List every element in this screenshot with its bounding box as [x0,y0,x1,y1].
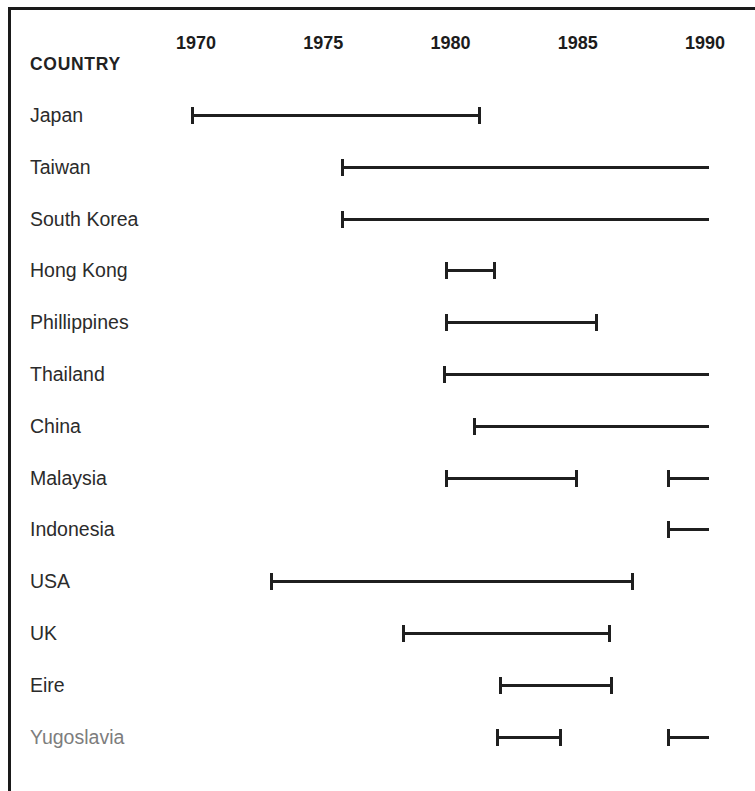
timeline-bar-segment [443,373,709,376]
timeline-start-cap [667,521,670,538]
timeline-end-cap [610,677,613,694]
timeline-bar-segment [667,528,709,531]
timeline-start-cap [270,573,273,590]
timeline-start-cap [667,729,670,746]
timeline-start-cap [402,625,405,642]
timeline-bar-segment [402,632,611,635]
timeline-end-cap [559,729,562,746]
chart-row: Hong Kong [0,244,755,296]
timeline-end-cap [608,625,611,642]
row-plot-area [0,503,755,555]
chart-row: Indonesia [0,503,755,555]
timeline-bar-segment [499,684,614,687]
timeline-start-cap [445,262,448,279]
x-axis-tick-1985: 1985 [558,33,598,54]
timeline-start-cap [341,159,344,176]
row-plot-area [0,89,755,141]
row-plot-area [0,607,755,659]
row-plot-area [0,659,755,711]
x-axis-tick-1970: 1970 [176,33,216,54]
chart-row: South Korea [0,193,755,245]
row-plot-area [0,711,755,763]
x-axis-tick-1975: 1975 [303,33,343,54]
chart-row: Eire [0,659,755,711]
chart-row: Phillippines [0,296,755,348]
timeline-bar-segment [473,425,709,428]
x-axis-tick-1990: 1990 [685,33,725,54]
timeline-bar-segment [667,736,709,739]
row-plot-area [0,296,755,348]
chart-row: Malaysia [0,452,755,504]
timeline-bar-segment [445,321,598,324]
row-plot-area [0,244,755,296]
timeline-bar-segment [667,477,709,480]
timeline-end-cap [575,470,578,487]
timeline-bar-segment [270,580,634,583]
chart-row: China [0,400,755,452]
chart-row: Thailand [0,348,755,400]
row-plot-area [0,452,755,504]
row-plot-area [0,193,755,245]
chart-row: Yugoslavia [0,711,755,763]
timeline-bar-segment [445,269,496,272]
timeline-bar-segment [191,114,481,117]
timeline-start-cap [445,314,448,331]
chart-axis-header: COUNTRY 19701975198019851990 [0,0,755,80]
timeline-end-cap [478,107,481,124]
timeline-start-cap [341,211,344,228]
timeline-end-cap [595,314,598,331]
chart-row: Taiwan [0,141,755,193]
timeline-start-cap [499,677,502,694]
timeline-bar-segment [341,218,709,221]
timeline-start-cap [445,470,448,487]
country-column-header: COUNTRY [30,54,121,75]
chart-row: Japan [0,89,755,141]
timeline-start-cap [191,107,194,124]
timeline-bar-segment [496,736,562,739]
timeline-chart-figure: COUNTRY 19701975198019851990 JapanTaiwan… [0,0,755,791]
timeline-start-cap [667,470,670,487]
row-plot-area [0,141,755,193]
x-axis-tick-1980: 1980 [430,33,470,54]
timeline-bar-segment [341,166,709,169]
row-plot-area [0,555,755,607]
timeline-start-cap [443,366,446,383]
timeline-end-cap [631,573,634,590]
timeline-start-cap [473,418,476,435]
row-plot-area [0,400,755,452]
timeline-end-cap [493,262,496,279]
timeline-bar-segment [445,477,577,480]
chart-row: USA [0,555,755,607]
timeline-start-cap [496,729,499,746]
chart-row: UK [0,607,755,659]
row-plot-area [0,348,755,400]
